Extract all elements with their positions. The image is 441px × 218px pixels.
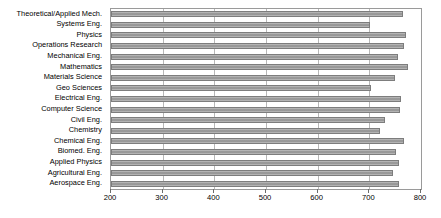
bar [111, 96, 401, 102]
bar-row [111, 30, 421, 41]
category-label: Electrical Eng. [0, 93, 106, 104]
bar-row [111, 62, 421, 73]
bar [111, 117, 385, 123]
bar [111, 149, 396, 155]
bar [111, 160, 399, 166]
x-axis-tick-label: 200 [104, 194, 117, 202]
x-axis-tick-label: 500 [259, 194, 272, 202]
bar [111, 32, 406, 38]
category-label: Physics [0, 29, 106, 40]
x-axis-tick-label: 700 [362, 194, 375, 202]
bar-row [111, 157, 421, 168]
bar-row [111, 115, 421, 126]
category-label: Agricultural Eng. [0, 167, 106, 178]
bar-row [111, 94, 421, 105]
x-axis: 200300400500600700800 [110, 189, 420, 213]
x-axis-tick-label: 300 [155, 194, 168, 202]
category-label: Mechanical Eng. [0, 50, 106, 61]
category-label: Computer Science [0, 103, 106, 114]
category-label: Materials Science [0, 72, 106, 83]
bar [111, 181, 399, 187]
bar-row [111, 73, 421, 84]
bar [111, 138, 404, 144]
bar [111, 107, 400, 113]
bar [111, 75, 395, 81]
category-label: Civil Eng. [0, 114, 106, 125]
bar-row [111, 20, 421, 31]
bar-row [111, 168, 421, 179]
category-axis-labels: Theoretical/Applied Mech.Systems Eng.Phy… [0, 8, 106, 188]
x-axis-tick-label: 800 [414, 194, 427, 202]
category-label: Chemistry [0, 125, 106, 136]
category-label: Geo Sciences [0, 82, 106, 93]
bar [111, 85, 371, 91]
bar-row [111, 126, 421, 137]
category-label: Theoretical/Applied Mech. [0, 8, 106, 19]
category-label: Aerospace Eng. [0, 178, 106, 189]
category-label: Biomed. Eng. [0, 146, 106, 157]
bar-row [111, 179, 421, 190]
bar-row [111, 41, 421, 52]
category-label: Applied Physics [0, 156, 106, 167]
bar-row [111, 104, 421, 115]
bar [111, 43, 404, 49]
bar-row [111, 83, 421, 94]
plot-area [110, 8, 422, 190]
bar [111, 170, 393, 176]
x-axis-tick-label: 400 [207, 194, 220, 202]
bar [111, 64, 408, 70]
bar-row [111, 147, 421, 158]
bars-layer [111, 9, 421, 189]
bar-row [111, 9, 421, 20]
category-label: Operations Research [0, 40, 106, 51]
bar [111, 22, 370, 28]
horizontal-bar-chart: Theoretical/Applied Mech.Systems Eng.Phy… [0, 0, 441, 218]
bar-row [111, 51, 421, 62]
bar [111, 128, 380, 134]
bar [111, 54, 398, 60]
x-axis-tick-label: 600 [310, 194, 323, 202]
category-label: Systems Eng. [0, 19, 106, 30]
category-label: Chemical Eng. [0, 135, 106, 146]
bar-row [111, 136, 421, 147]
category-label: Mathematics [0, 61, 106, 72]
bar [111, 11, 403, 17]
